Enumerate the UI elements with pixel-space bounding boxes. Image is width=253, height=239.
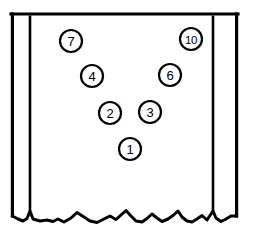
callout-2[interactable]: 2 [99,102,121,124]
callout-2-label: 2 [106,106,113,121]
callout-7[interactable]: 7 [60,30,82,52]
callout-1-label: 1 [126,142,133,157]
torn-break-edge [12,211,236,223]
patent-figure: 7 10 4 6 2 3 [0,0,253,239]
callout-4-label: 4 [88,69,95,84]
callout-10[interactable]: 10 [180,28,202,50]
callout-1[interactable]: 1 [119,138,141,160]
callout-10-label: 10 [185,34,197,46]
callout-6-label: 6 [166,68,173,83]
callout-6[interactable]: 6 [159,64,181,86]
callout-group: 7 10 4 6 2 3 [60,28,202,160]
callout-7-label: 7 [67,34,74,49]
callout-3[interactable]: 3 [139,101,161,123]
callout-3-label: 3 [146,105,153,120]
callout-4[interactable]: 4 [81,65,103,87]
figure-drawing-canvas: 7 10 4 6 2 3 [0,0,253,239]
